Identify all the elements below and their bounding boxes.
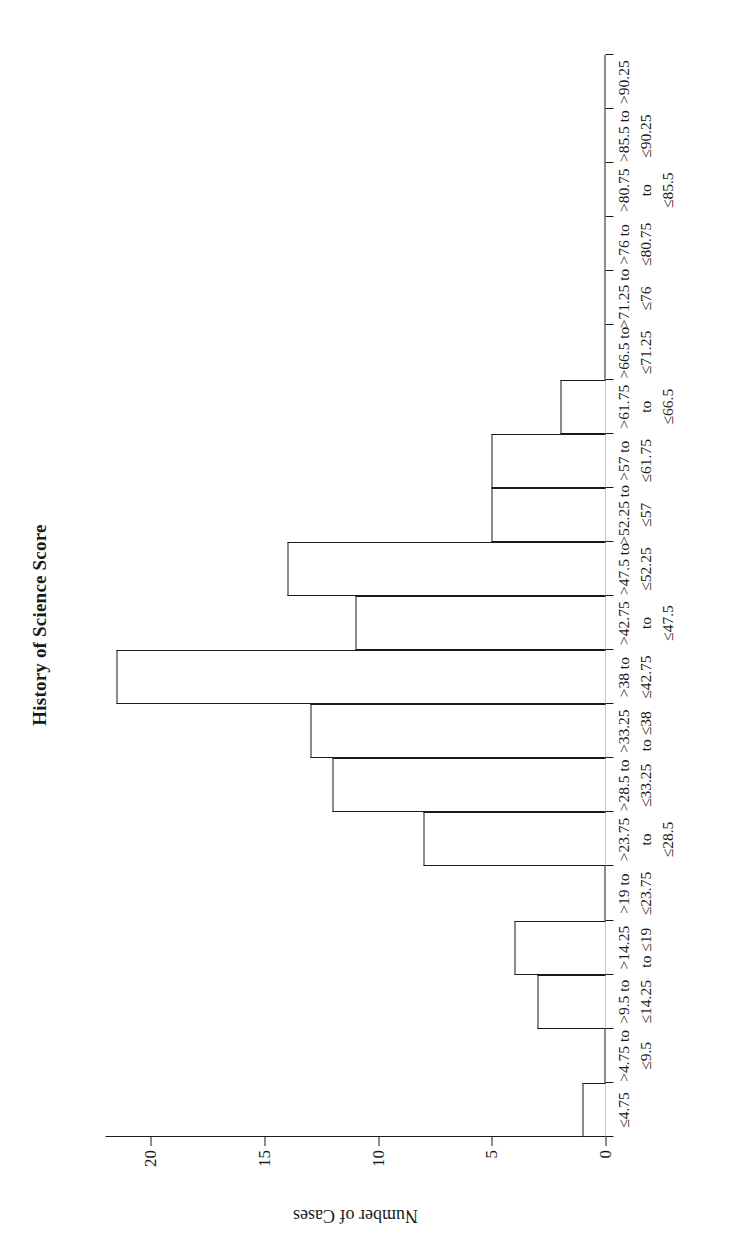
bar [332, 758, 605, 812]
y-tick-0 [605, 1137, 606, 1146]
y-tick-20 [150, 1137, 151, 1146]
plot-area: Number of Cases 05101520 [105, 55, 605, 1137]
y-tick-5 [491, 1137, 492, 1146]
bar [582, 1083, 605, 1137]
x-axis-tick-labels: ≤4.75>4.75 to ≤9.5>9.5 to ≤14.25>14.25 t… [612, 55, 742, 1137]
y-tick-10 [378, 1137, 379, 1146]
chart-title: History of Science Score [28, 0, 50, 1250]
y-tick-15 [264, 1137, 265, 1146]
bar [491, 434, 605, 488]
x-tick-label: >90.25 [612, 40, 634, 124]
bar [310, 704, 605, 758]
bar [560, 380, 605, 434]
y-tick-label-20: 20 [140, 1150, 160, 1167]
y-tick-label-5: 5 [481, 1150, 501, 1159]
bar [116, 650, 605, 704]
bar [287, 542, 605, 596]
bar-series [105, 55, 605, 1137]
histogram-figure: History of Science Score Number of Cases… [0, 0, 755, 1250]
bar [514, 921, 605, 975]
bar [355, 596, 605, 650]
bar [491, 488, 605, 542]
y-tick-label-15: 15 [254, 1150, 274, 1167]
y-axis-title: Number of Cases [293, 1205, 418, 1226]
y-tick-label-10: 10 [368, 1150, 388, 1167]
bar [537, 975, 605, 1029]
bar [423, 812, 605, 866]
